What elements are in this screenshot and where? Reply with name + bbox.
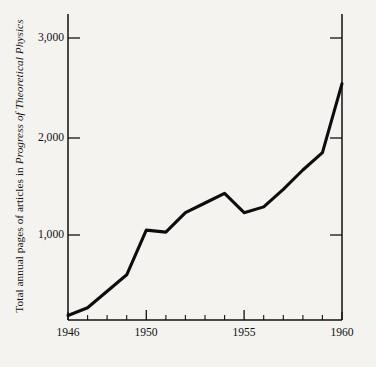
figure: Total annual pages of articles in Progre… <box>0 0 376 367</box>
x-tick-label-1946: 1946 <box>46 327 90 339</box>
y-tick-label-3000: 3,000 <box>18 32 64 44</box>
x-tick-label-1955: 1955 <box>222 327 266 339</box>
x-tick-label-1950: 1950 <box>124 327 168 339</box>
data-line-total-annual-pages <box>68 84 342 316</box>
x-tick-label-1960: 1960 <box>320 327 364 339</box>
y-tick-label-2000: 2,000 <box>18 132 64 144</box>
y-tick-label-1000: 1,000 <box>18 229 64 241</box>
plot-svg <box>0 0 376 367</box>
